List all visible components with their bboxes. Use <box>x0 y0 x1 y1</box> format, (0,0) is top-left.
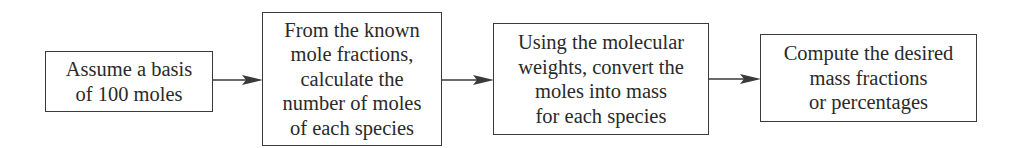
arrow-step-1-to-step-2 <box>212 74 263 86</box>
step-3-line-4: for each species <box>536 104 667 129</box>
arrow-step-3-to-step-4 <box>708 73 761 85</box>
step-1-assume-basis-box: Assume a basis of 100 moles <box>45 51 213 112</box>
arrow-right-icon <box>442 74 494 86</box>
arrow-step-2-to-step-3 <box>442 74 494 86</box>
step-3-line-3: moles into mass <box>535 79 667 104</box>
step-2-calculate-moles-box: From the known mole fractions, calculate… <box>262 12 442 146</box>
step-4-line-1: Compute the desired <box>784 41 954 66</box>
step-4-line-3: or percentages <box>809 90 928 115</box>
arrow-right-icon <box>212 74 263 86</box>
step-4-compute-fractions-box: Compute the desired mass fractions or pe… <box>760 34 977 122</box>
step-2-line-5: of each species <box>290 116 414 141</box>
step-1-line-2: of 100 moles <box>75 82 182 107</box>
step-1-line-1: Assume a basis <box>66 57 192 82</box>
step-2-line-4: number of moles <box>283 91 422 116</box>
step-4-line-2: mass fractions <box>810 66 928 91</box>
step-3-line-2: weights, convert the <box>518 55 684 80</box>
step-3-convert-mass-box: Using the molecular weights, convert the… <box>493 23 709 135</box>
step-2-line-2: mole fractions, <box>291 42 414 67</box>
step-3-line-1: Using the molecular <box>518 30 684 55</box>
step-2-line-3: calculate the <box>300 67 403 92</box>
step-2-line-1: From the known <box>284 18 420 43</box>
arrow-right-icon <box>708 73 761 85</box>
